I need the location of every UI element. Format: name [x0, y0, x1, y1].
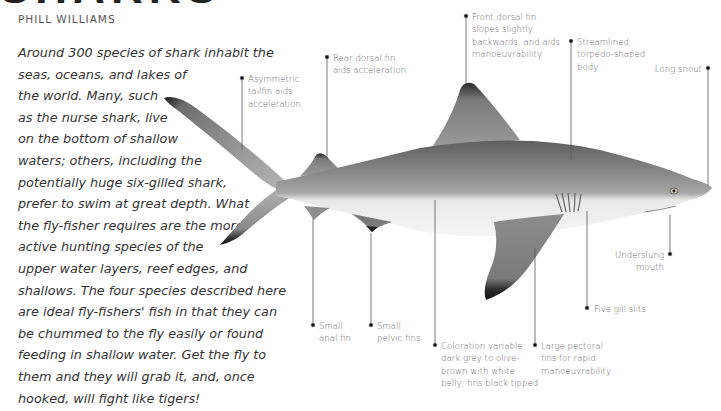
tail-upper-lobe — [164, 97, 290, 194]
label-streamlined-body: Streamlined, torpedo-shaped body — [577, 36, 645, 73]
front-dorsal-fin — [430, 83, 520, 150]
label-long-snout: Long snout — [655, 63, 702, 75]
anal-fin — [304, 206, 330, 220]
pectoral-fin — [485, 214, 564, 300]
label-rear-dorsal-fin: Rear dorsal fin aids acceleration — [333, 52, 406, 77]
label-front-dorsal-fin: Front dorsal fin slopes slightly backwar… — [472, 11, 560, 61]
label-anal-fin: Small anal fin — [319, 320, 351, 345]
label-gill-slits: Five gill slits — [594, 303, 646, 315]
label-pelvic-fins: Small pelvic fins — [377, 320, 420, 345]
label-tailfin: Asymmetric tailfin aids acceleration — [248, 73, 301, 110]
label-coloration: Coloration variable: dark grey to olive-… — [441, 340, 538, 390]
shark-body — [276, 140, 712, 236]
label-pectoral-fins: Large pectoral fins for rapid manoeuvrab… — [541, 340, 611, 377]
tail-lower-lobe — [220, 190, 292, 245]
label-underslung-mouth: Underslung mouth — [615, 249, 664, 274]
